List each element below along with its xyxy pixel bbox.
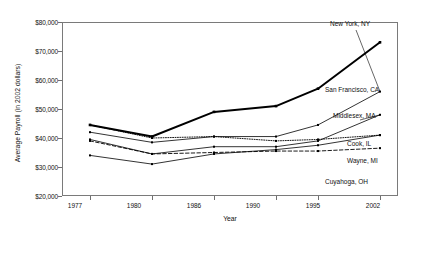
data-point-marker xyxy=(275,146,277,148)
data-point-marker xyxy=(379,41,382,44)
line-chart: $80,000 $70,000 $60,000 $50,000 $40,000 … xyxy=(0,0,426,255)
series-line xyxy=(90,141,380,154)
data-point-marker xyxy=(317,87,320,90)
data-point-marker xyxy=(275,136,277,138)
data-point-marker xyxy=(89,154,91,156)
data-point-marker xyxy=(379,147,381,149)
data-point-marker xyxy=(151,153,153,155)
data-point-marker xyxy=(213,152,215,154)
data-point-marker xyxy=(213,111,216,114)
label-leader-line xyxy=(356,30,380,92)
data-point-marker xyxy=(213,146,215,148)
data-point-marker xyxy=(213,136,215,138)
data-point-marker xyxy=(151,141,153,143)
data-point-marker xyxy=(151,137,153,139)
data-point-marker xyxy=(317,150,319,152)
series-label-san-francisco: San Francisco, CA xyxy=(325,86,379,94)
series-label-cuyahoga: Cuyahoga, OH xyxy=(325,178,368,186)
data-point-marker xyxy=(317,124,319,126)
series-label-middlesex: Middlesex, MA xyxy=(333,112,376,120)
data-point-marker xyxy=(275,150,277,152)
data-point-marker xyxy=(89,131,91,133)
series-label-wayne: Wayne, MI xyxy=(347,157,378,165)
series-label-cook: Cook, IL xyxy=(347,140,371,148)
data-point-marker xyxy=(379,134,381,136)
data-point-marker xyxy=(275,140,277,142)
data-point-marker xyxy=(275,105,278,108)
data-point-marker xyxy=(317,144,319,146)
series-label-new-york: New York, NY xyxy=(330,20,370,28)
data-point-marker xyxy=(151,163,153,165)
series-lines-layer xyxy=(0,0,426,255)
data-point-marker xyxy=(317,138,319,140)
data-point-marker xyxy=(89,124,91,126)
data-point-marker xyxy=(89,140,91,142)
